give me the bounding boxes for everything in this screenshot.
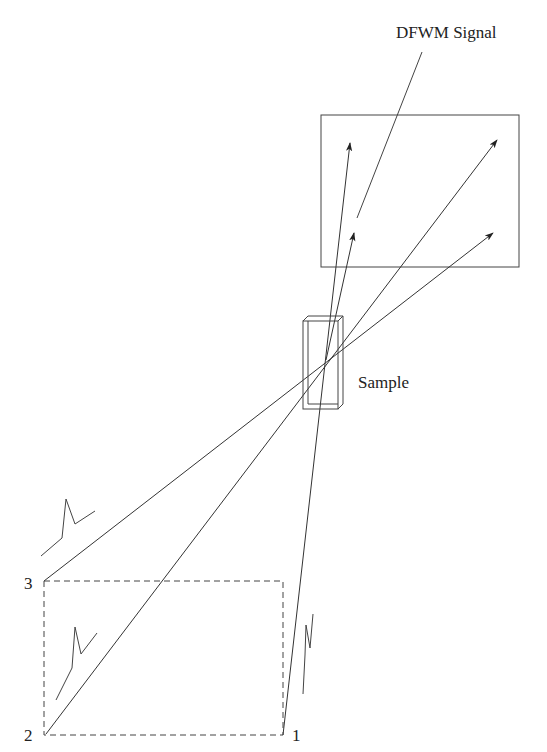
pulse-1-icon [303, 614, 313, 694]
detector-box [321, 115, 519, 267]
signal-label: DFWM Signal [396, 23, 497, 42]
beam-3-line [44, 233, 493, 581]
dfwm-diagram: DFWM Signal Sample 3 2 1 [0, 0, 547, 752]
beam-1-label: 1 [292, 726, 301, 745]
dfwm-signal-beam [326, 233, 354, 360]
sample-label: Sample [358, 373, 409, 392]
beam-2-label: 2 [24, 726, 33, 745]
signal-pointer-line [357, 52, 422, 218]
beam-1-line [283, 143, 350, 735]
beam-3-label: 3 [24, 574, 33, 593]
input-plane-dashed-rect [44, 581, 283, 735]
beam-2-line [46, 140, 497, 734]
sample-cell [303, 316, 343, 409]
pulse-2-icon [56, 627, 97, 700]
